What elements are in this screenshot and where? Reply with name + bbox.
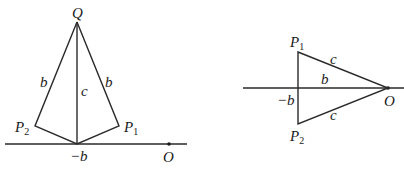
left-figure: Q b b c P2 P1 −b O xyxy=(5,5,187,165)
label-P1: P1 xyxy=(123,119,138,137)
diagram-canvas: Q b b c P2 P1 −b O P1 c b −b O c P2 xyxy=(0,0,404,173)
label-side-left: b xyxy=(40,74,48,90)
label-middle: b xyxy=(321,71,329,87)
label-origin: O xyxy=(384,93,395,109)
label-lower: c xyxy=(330,107,337,123)
label-P2: P2 xyxy=(14,119,29,137)
label-P1: P1 xyxy=(289,34,304,52)
label-upper: c xyxy=(330,51,337,67)
label-vertical: c xyxy=(81,83,88,99)
label-axis-point: −b xyxy=(70,148,88,164)
label-Q: Q xyxy=(72,5,83,21)
origin-point xyxy=(167,142,171,146)
label-axis-point: −b xyxy=(277,92,295,108)
label-side-right: b xyxy=(105,74,113,90)
label-P2: P2 xyxy=(289,128,304,146)
label-origin: O xyxy=(163,149,174,165)
right-figure: P1 c b −b O c P2 xyxy=(243,34,404,146)
